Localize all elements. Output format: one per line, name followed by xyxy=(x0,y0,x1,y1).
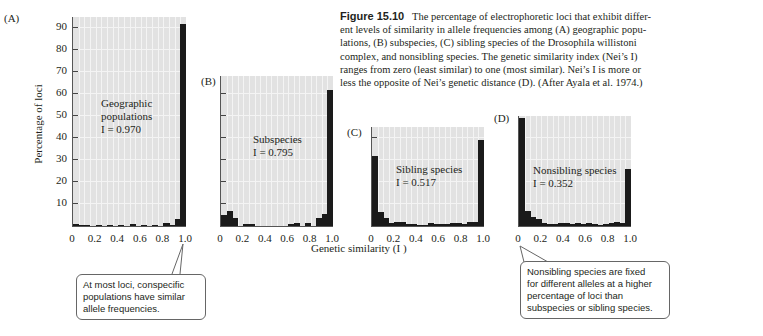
callout-line: percentage of loci than xyxy=(527,290,663,302)
callout-nonsibling: Nonsibling species are fixed for differe… xyxy=(520,261,670,319)
callout-line: At most loci, conspecific xyxy=(83,279,199,291)
callout-line: for different alleles at a higher xyxy=(527,278,663,290)
callout-line: Nonsibling species are fixed xyxy=(527,266,663,278)
callout-line: allele frequencies. xyxy=(83,303,199,315)
callout-pointer-left xyxy=(172,244,183,274)
callout-line: subspecies or sibling species. xyxy=(527,302,663,314)
callout-conspecific: At most loci, conspecific populations ha… xyxy=(76,274,206,320)
callout-line: populations have similar xyxy=(83,291,199,303)
callout-pointer-right xyxy=(520,246,548,262)
